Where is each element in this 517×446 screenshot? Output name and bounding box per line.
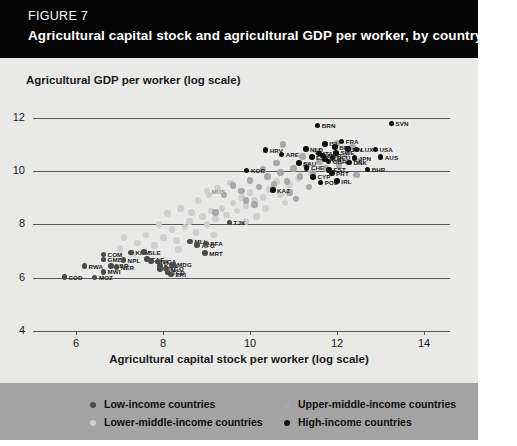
data-point xyxy=(204,221,211,228)
legend-label-3: High-income countries xyxy=(298,416,412,428)
point-label-USA: USA xyxy=(380,146,393,153)
point-label-KOR: KOR xyxy=(251,167,265,174)
point-label-NPL: NPL xyxy=(128,257,141,264)
data-point xyxy=(273,160,280,167)
data-point-POL xyxy=(318,180,324,186)
x-tick-label-14: 14 xyxy=(412,337,436,349)
figure-number: FIGURE 7 xyxy=(28,9,88,23)
point-label-BHR: BHR xyxy=(372,166,386,173)
data-point-CYP xyxy=(310,174,316,180)
data-point-ETH xyxy=(148,258,154,264)
data-point xyxy=(290,165,297,172)
point-label-CYP: CYP xyxy=(317,173,330,180)
data-point-DNK xyxy=(346,160,352,166)
figure-header: FIGURE 7 Agricultural capital stock and … xyxy=(0,0,478,58)
data-point-HRV xyxy=(263,147,269,153)
data-point xyxy=(293,196,300,203)
y-tick-label-8: 8 xyxy=(3,217,25,229)
legend-marker-3 xyxy=(284,420,290,426)
data-point-USA xyxy=(373,147,379,153)
legend-marker-0 xyxy=(90,402,96,408)
data-point xyxy=(173,237,180,244)
data-point-CHE xyxy=(304,165,310,171)
point-label-AUS: AUS xyxy=(385,154,398,161)
point-label-PRT: PRT xyxy=(336,170,349,177)
data-point xyxy=(277,169,284,176)
data-point xyxy=(186,218,193,225)
y-tick-label-10: 10 xyxy=(3,164,25,176)
y-tick-label-4: 4 xyxy=(3,324,25,336)
x-tick-label-10: 10 xyxy=(238,337,262,349)
data-point-AFG xyxy=(194,242,200,248)
data-point xyxy=(160,234,167,241)
data-point xyxy=(243,197,250,204)
point-label-LUX: LUX xyxy=(361,146,374,153)
data-point xyxy=(238,188,245,195)
point-label-ERI: ERI xyxy=(175,271,186,278)
plot-area: Agricultural GDP per worker (log scale) … xyxy=(0,58,478,383)
data-point-MRT xyxy=(202,250,208,256)
data-point-KAZ xyxy=(270,187,276,193)
data-point-COD xyxy=(62,274,68,280)
point-label-ARE: ARE xyxy=(286,151,299,158)
legend-marker-2 xyxy=(284,402,290,408)
legend-marker-1 xyxy=(90,420,96,426)
data-point xyxy=(164,210,171,217)
point-label-BFA: BFA xyxy=(210,240,223,247)
data-point-ARE xyxy=(279,152,285,158)
point-label-KAZ: KAZ xyxy=(277,187,290,194)
data-point xyxy=(247,177,254,184)
data-point-BRN xyxy=(315,123,321,129)
data-point xyxy=(223,212,230,219)
data-point xyxy=(156,221,163,228)
legend-label-1: Lower-middle-income countries xyxy=(104,416,263,428)
data-point xyxy=(199,213,206,220)
figure-container: FIGURE 7 Agricultural capital stock and … xyxy=(0,0,478,440)
data-point-ISL xyxy=(322,141,328,147)
point-label-SLE: SLE xyxy=(148,249,160,256)
data-point-BFA xyxy=(203,241,209,247)
x-tick-mark-8 xyxy=(163,331,164,335)
data-point xyxy=(282,200,289,207)
data-point-NPL xyxy=(121,257,127,263)
x-tick-mark-14 xyxy=(424,331,425,335)
data-point xyxy=(230,200,237,207)
y-axis-label: Agricultural GDP per worker (log scale) xyxy=(26,74,241,86)
legend: Low-income countriesLower-middle-income … xyxy=(0,383,478,440)
x-tick-label-8: 8 xyxy=(151,337,175,349)
data-point-SLE xyxy=(141,249,147,255)
data-point-GMB xyxy=(101,257,107,263)
data-point xyxy=(221,192,228,199)
point-label-COM: COM xyxy=(108,251,123,258)
data-point xyxy=(306,184,313,191)
data-point xyxy=(230,182,237,189)
data-point xyxy=(353,172,360,179)
data-point-AUS xyxy=(378,154,384,160)
point-label-SVN: SVN xyxy=(396,120,409,127)
data-point-KOR xyxy=(244,168,250,174)
x-axis-label: Agricultural capital stock per worker (l… xyxy=(0,353,478,365)
data-point-MDG xyxy=(170,262,176,268)
point-label-IRL: IRL xyxy=(341,178,351,185)
data-point xyxy=(247,189,254,196)
x-tick-label-12: 12 xyxy=(325,337,349,349)
legend-label-0: Low-income countries xyxy=(104,398,215,410)
data-point-GIN xyxy=(157,266,163,272)
data-point xyxy=(188,209,195,216)
data-point xyxy=(253,213,260,220)
data-point-COM xyxy=(101,252,107,258)
gridline-y-12 xyxy=(33,118,450,119)
data-point xyxy=(234,208,241,215)
gridline-y-4 xyxy=(33,331,450,332)
data-point xyxy=(195,197,202,204)
data-point xyxy=(264,173,271,180)
data-point xyxy=(212,216,219,223)
data-point xyxy=(169,226,176,233)
point-label-DNK: DNK xyxy=(353,159,367,166)
data-point xyxy=(212,209,219,216)
data-point xyxy=(177,205,184,212)
x-tick-label-6: 6 xyxy=(64,337,88,349)
data-point xyxy=(260,194,267,201)
data-point-BEL xyxy=(332,144,338,150)
point-label-CHE: CHE xyxy=(311,164,324,171)
